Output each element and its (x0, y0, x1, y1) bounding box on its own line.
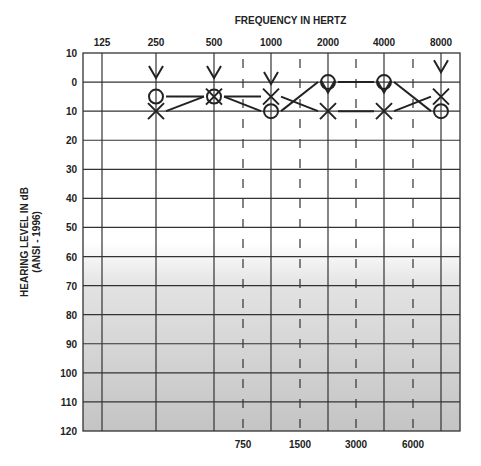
y-tick: 110 (61, 397, 78, 408)
audiogram-chart: 1252505001000200040008000750150030006000… (0, 0, 481, 466)
y-tick: 70 (66, 281, 78, 292)
y-tick: 0 (71, 77, 77, 88)
y-tick: 40 (66, 193, 78, 204)
x-tick-top: 4000 (373, 37, 396, 48)
y-tick: 30 (66, 164, 78, 175)
x-tick-bottom: 3000 (345, 439, 368, 450)
x-tick-top: 1000 (260, 37, 283, 48)
y-tick: 60 (66, 252, 78, 263)
y-tick: 90 (66, 339, 78, 350)
x-tick-top: 125 (94, 37, 111, 48)
x-tick-top: 8000 (430, 37, 453, 48)
y-tick: 80 (66, 310, 78, 321)
y-tick: 20 (66, 135, 78, 146)
y-tick: 10 (66, 48, 78, 59)
x-tick-bottom: 6000 (402, 439, 425, 450)
y-tick: 50 (66, 222, 78, 233)
x-tick-top: 500 (206, 37, 223, 48)
x-tick-top: 250 (148, 37, 165, 48)
x-tick-bottom: 1500 (289, 439, 312, 450)
y-tick: 120 (60, 426, 77, 437)
y-tick: 100 (60, 368, 77, 379)
y-tick: 10 (66, 106, 78, 117)
x-tick-top: 2000 (317, 37, 340, 48)
x-tick-bottom: 750 (235, 439, 252, 450)
